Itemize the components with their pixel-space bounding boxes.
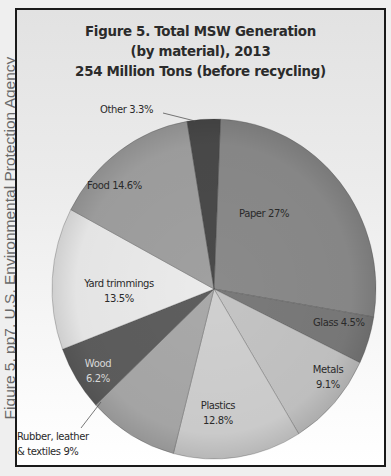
wood-name: Wood	[78, 356, 118, 371]
yard-name: Yard trimmings	[69, 276, 169, 291]
metals-pct: 9.1%	[303, 377, 353, 392]
metals-name: Metals	[303, 362, 353, 377]
plastics-pct: 12.8%	[193, 413, 243, 428]
rubber-leader-line	[81, 402, 101, 428]
label-metals: Metals 9.1%	[303, 362, 353, 392]
pie-chart	[17, 10, 384, 465]
yard-pct: 13.5%	[69, 291, 169, 306]
label-paper: Paper 27%	[239, 206, 289, 221]
other-leader-line	[163, 113, 195, 121]
label-other: Other 3.3%	[100, 102, 153, 117]
plastics-name: Plastics	[193, 398, 243, 413]
label-wood: Wood 6.2%	[78, 356, 118, 386]
label-plastics: Plastics 12.8%	[193, 398, 243, 428]
rubber-line-2: & textiles 9%	[17, 444, 89, 459]
rubber-line-1: Rubber, leather	[17, 429, 89, 444]
label-glass: Glass 4.5%	[313, 315, 365, 330]
figure-frame: Figure 5. Total MSW Generation (by mater…	[15, 8, 386, 467]
label-yard: Yard trimmings 13.5%	[69, 276, 169, 306]
wood-pct: 6.2%	[78, 371, 118, 386]
label-rubber: Rubber, leather & textiles 9%	[17, 429, 89, 459]
label-food: Food 14.6%	[87, 178, 142, 193]
